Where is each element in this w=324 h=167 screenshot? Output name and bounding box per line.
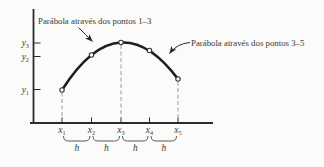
interval-braces: [64, 136, 177, 141]
h-label-2: h: [104, 143, 109, 153]
y3-label: y3: [21, 38, 29, 49]
h-brace-2: [93, 136, 120, 141]
figure-container: Parábola através dos pontos 1–3 Parábola…: [0, 0, 324, 167]
y-axis-labels: y3 y2 y1: [21, 38, 29, 96]
h-brace-1: [64, 136, 91, 141]
left-annotation-arrow: [79, 28, 93, 42]
x2-label: x2: [87, 125, 95, 136]
x-axis-ticks: [62, 118, 178, 123]
data-point-markers: [60, 40, 180, 92]
h-interval-labels: h h h h: [74, 143, 166, 153]
point-4-marker: [147, 48, 151, 52]
right-annotation-arrow: [170, 43, 191, 54]
point-3-marker: [119, 40, 123, 44]
parabola-curve: [62, 42, 178, 90]
x-axis-labels: x1 x2 x3 x4 x5: [57, 125, 181, 136]
point-5-marker: [176, 77, 180, 81]
y1-label: y1: [21, 85, 29, 96]
annotation-parabola-points-3-5: Parábola através dos pontos 3–5: [191, 38, 305, 48]
dashed-drop-lines: [62, 45, 178, 122]
point-2-marker: [89, 53, 93, 57]
parabola-diagram: Parábola através dos pontos 1–3 Parábola…: [0, 0, 324, 167]
x5-label: x5: [173, 125, 181, 136]
h-brace-4: [151, 136, 177, 141]
x4-label: x4: [145, 125, 154, 136]
y2-label: y2: [21, 52, 29, 63]
y-axis-ticks: [34, 43, 41, 90]
x1-label: x1: [57, 125, 65, 136]
x3-label: x3: [116, 125, 124, 136]
point-1-marker: [60, 88, 64, 92]
annotation-parabola-points-1-3: Parábola através dos pontos 1–3: [38, 16, 152, 26]
h-label-4: h: [161, 143, 166, 153]
h-label-1: h: [74, 143, 79, 153]
h-label-3: h: [133, 143, 138, 153]
h-brace-3: [123, 136, 149, 141]
